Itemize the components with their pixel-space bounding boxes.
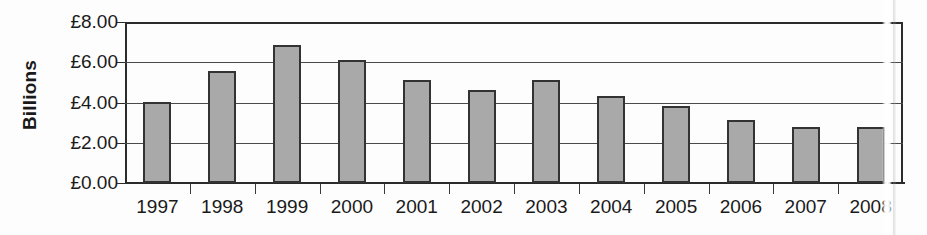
bar-2004 (597, 96, 625, 183)
y-axis-tick-labels: £0.00£2.00£4.00£6.00£8.00 (44, 0, 118, 190)
x-axis-tick-label: 2006 (720, 196, 762, 218)
x-axis-tick-label: 2001 (396, 196, 438, 218)
bar-2000 (338, 60, 366, 183)
x-axis-tick-label: 2007 (785, 196, 827, 218)
bar-chart-screenshot: Billions £0.00£2.00£4.00£6.00£8.00 19971… (0, 0, 927, 235)
x-axis-tick-label: 1998 (201, 196, 243, 218)
x-axis-tick-label: 2005 (655, 196, 697, 218)
x-axis-tick-labels: 1997199819992000200120022003200420052006… (125, 196, 903, 230)
x-axis-tick-mark (255, 184, 256, 194)
bars-layer (125, 22, 903, 183)
x-axis-tick-mark (514, 184, 515, 194)
x-axis-tick-label: 1997 (136, 196, 178, 218)
y-axis-tick-label: £2.00 (44, 132, 118, 154)
x-axis-tick-label: 2002 (460, 196, 502, 218)
bar-2003 (532, 80, 560, 183)
x-axis-tick-label: 2003 (525, 196, 567, 218)
x-axis-tick-label: 2004 (590, 196, 632, 218)
x-axis-tick-label: 2008 (849, 196, 891, 218)
bar-2007 (792, 127, 820, 183)
y-axis-tick-label: £6.00 (44, 51, 118, 73)
x-axis-tick-mark (384, 184, 385, 194)
x-axis-tick-mark (449, 184, 450, 194)
y-axis-tick-label: £8.00 (44, 11, 118, 33)
x-axis-tick-label: 1999 (266, 196, 308, 218)
y-axis-tick-label: £0.00 (44, 172, 118, 194)
bar-2001 (403, 80, 431, 183)
y-axis-tick-label: £4.00 (44, 92, 118, 114)
x-axis-tick-label: 2000 (331, 196, 373, 218)
x-axis-tick-mark (579, 184, 580, 194)
x-axis-tick-mark (773, 184, 774, 194)
bar-2005 (662, 106, 690, 183)
bar-1999 (273, 45, 301, 183)
y-axis-tick-mark (117, 183, 126, 184)
x-axis-tick-mark (190, 184, 191, 194)
x-axis-tick-mark (320, 184, 321, 194)
bar-1997 (143, 102, 171, 184)
x-axis-tick-mark (644, 184, 645, 194)
y-axis-title-label: Billions (19, 60, 41, 130)
bar-2002 (468, 90, 496, 183)
x-axis-tick-mark (838, 184, 839, 194)
x-axis-tick-mark (709, 184, 710, 194)
bar-1998 (208, 71, 236, 183)
bar-2008 (857, 127, 885, 183)
bar-2006 (727, 120, 755, 183)
